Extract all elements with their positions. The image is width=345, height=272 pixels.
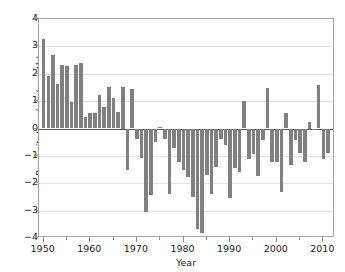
x-tick-mark-minor [206,237,207,240]
x-tick-label: 1950 [23,243,63,254]
x-tick-label: 1960 [69,243,109,254]
x-tick-mark [322,237,323,242]
x-tick-mark [89,237,90,242]
x-axis-label: Year [38,257,334,268]
x-tick-mark-minor [299,237,300,240]
x-tick-label: 2010 [302,243,342,254]
x-tick-mark [276,237,277,242]
x-tick-mark-minor [252,237,253,240]
x-tick-label: 2000 [256,243,296,254]
x-tick-mark-minor [113,237,114,240]
precipitation-bar-chart: Precipitation (cm/month) 43210−1−2−3−4 1… [0,0,345,272]
x-tick-label: 1990 [209,243,249,254]
x-tick-label: 1980 [163,243,203,254]
x-tick-mark [229,237,230,242]
x-tick-label: 1970 [116,243,156,254]
x-tick-mark-minor [66,237,67,240]
x-tick-mark-minor [159,237,160,240]
x-tick-mark [43,237,44,242]
x-tick-mark [136,237,137,242]
x-axis-ticks: 1950196019701980199020002010 [0,0,345,272]
x-tick-mark [183,237,184,242]
